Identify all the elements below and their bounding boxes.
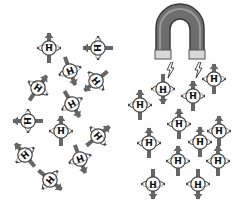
- random-hydrogen-atom-icon: H: [13, 106, 43, 136]
- svg-text:H: H: [215, 126, 223, 136]
- random-hydrogen-atom-icon: H: [57, 89, 87, 119]
- mri-spin-diagram: HHHHHHHHHHHH HHHHHHHHHHHH: [0, 0, 242, 216]
- svg-text:H: H: [145, 138, 153, 148]
- random-hydrogen-atom-icon: H: [83, 33, 113, 63]
- svg-text:H: H: [210, 74, 218, 84]
- svg-text:H: H: [175, 119, 183, 129]
- horseshoe-magnet-icon: [150, 2, 210, 62]
- svg-text:H: H: [189, 91, 197, 101]
- svg-text:H: H: [57, 126, 65, 136]
- aligned-hydrogen-atom-icon: H: [134, 128, 164, 158]
- svg-text:H: H: [23, 117, 33, 125]
- svg-text:H: H: [136, 100, 144, 110]
- svg-text:H: H: [45, 43, 53, 53]
- random-hydrogen-atom-icon: H: [35, 165, 65, 195]
- aligned-hydrogen-atom-icon: H: [125, 90, 155, 120]
- aligned-hydrogen-atom-icon: H: [183, 169, 213, 199]
- random-hydrogen-atom-icon: H: [23, 73, 53, 103]
- svg-text:H: H: [174, 156, 182, 166]
- svg-text:H: H: [149, 179, 157, 189]
- aligned-hydrogen-atom-icon: H: [178, 81, 208, 111]
- svg-text:H: H: [93, 44, 103, 52]
- aligned-hydrogen-atom-icon: H: [138, 169, 168, 199]
- random-hydrogen-atom-icon: H: [65, 144, 95, 174]
- svg-text:H: H: [194, 179, 202, 189]
- svg-text:H: H: [159, 84, 167, 94]
- random-hydrogen-atom-icon: H: [46, 116, 76, 146]
- svg-text:H: H: [214, 156, 222, 166]
